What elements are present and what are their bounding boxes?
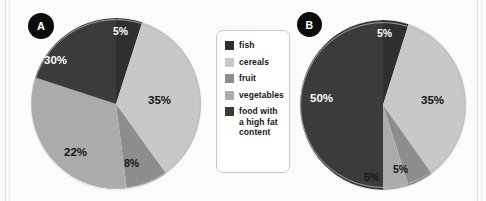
pie-a-label-vegetables: 22%: [64, 147, 87, 159]
legend-swatch-fish-icon: [225, 41, 234, 50]
legend-swatch-cereals-icon: [225, 58, 234, 67]
pie-b-slice-fat[interactable]: [300, 20, 383, 190]
pie-a-badge: A: [28, 13, 54, 39]
pie-chart-a: [31, 18, 201, 190]
legend-label-fruit: fruit: [239, 73, 256, 84]
legend-swatch-food-high-fat-icon: [225, 107, 234, 116]
legend-item-food-with-a-high-fat-content[interactable]: food with a high fat content: [225, 106, 282, 138]
pie-a-slices: [31, 18, 201, 190]
legend-label-vegetables: vegetables: [239, 90, 284, 101]
legend-swatch-vegetables-icon: [225, 91, 234, 100]
legend-label-fish: fish: [239, 40, 255, 51]
pie-chart-b-panel: B 5% 35% 5% 5% 50%: [292, 0, 486, 201]
legend: fish cereals fruit vegetables food with …: [216, 30, 290, 173]
pie-a-label-fat: 30%: [44, 55, 67, 67]
legend-swatch-fruit-icon: [225, 74, 234, 83]
pie-a-label-fruit: 8%: [124, 158, 139, 169]
legend-label-cereals: cereals: [239, 57, 269, 68]
pie-a-label-cereals: 35%: [148, 95, 171, 107]
legend-item-fish[interactable]: fish: [225, 40, 282, 51]
legend-label-food-high-fat: food with a high fat content: [239, 106, 282, 138]
pie-b-label-fish: 5%: [377, 28, 392, 39]
figure-canvas: A 5% 35% 8% 22% 30% fish cereals fruit v…: [0, 0, 486, 201]
pie-b-label-cereals: 35%: [421, 95, 444, 107]
pie-b-label-fat: 50%: [310, 93, 333, 105]
pie-a-svg: [31, 18, 201, 190]
legend-item-fruit[interactable]: fruit: [225, 73, 282, 84]
legend-item-cereals[interactable]: cereals: [225, 57, 282, 68]
pie-b-badge: B: [297, 12, 322, 37]
pie-b-label-fruit: 5%: [393, 164, 408, 175]
legend-item-vegetables[interactable]: vegetables: [225, 90, 282, 101]
pie-b-label-vegetables: 5%: [364, 172, 379, 183]
pie-a-label-fish: 5%: [113, 26, 128, 37]
pie-chart-a-panel: A 5% 35% 8% 22% 30%: [0, 0, 206, 201]
